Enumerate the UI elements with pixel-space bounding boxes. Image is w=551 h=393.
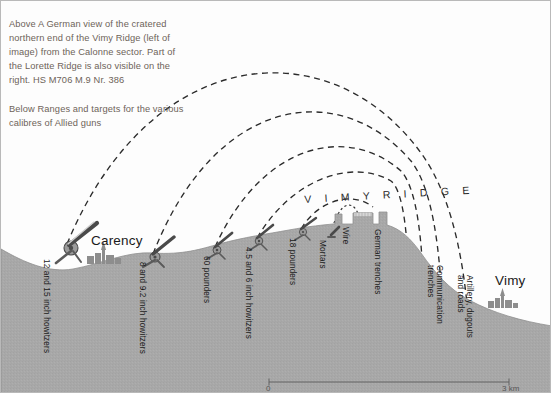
target-label-communication-trenches: Communication trenches xyxy=(426,265,444,324)
gun-label-4-5-6-inch-howitzers: 4.5 and 6 inch howitzers xyxy=(244,247,253,339)
target-label-wire: Wire xyxy=(341,227,350,244)
target-label-german-trenches: German trenches xyxy=(373,229,382,295)
place-label-carency: Carency xyxy=(91,233,143,248)
scale-label-max: 3 km xyxy=(502,384,519,393)
diagram-frame: Above A German view of the cratered nort… xyxy=(0,0,551,393)
vimy-village-icon xyxy=(488,288,518,308)
gun-label-8-9-2-inch-howitzers: 8 and 9.2 inch howitzers xyxy=(138,262,147,354)
scale-label-min: 0 xyxy=(266,384,270,393)
place-label-vimy: Vimy xyxy=(495,273,526,288)
gun-label-mortars: Mortars xyxy=(318,240,327,269)
caption-above: Above A German view of the cratered nort… xyxy=(9,17,239,87)
gun-label-18-pounders: 18 pounders xyxy=(288,238,297,285)
gun-label-12-15-inch-howitzers: 12 and 15 inch howitzers xyxy=(42,259,51,353)
wire-band xyxy=(354,213,372,217)
caption-below: Below Ranges and targets for the various… xyxy=(9,102,239,130)
gun-label-60-pounders: 60 pounders xyxy=(202,256,211,303)
target-label-artillery-dugouts-and-roads: Artillery, dugouts and roads xyxy=(456,275,474,338)
